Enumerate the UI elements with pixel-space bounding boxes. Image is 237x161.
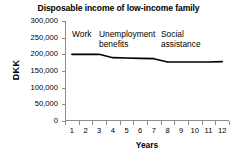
y-axis-tick-labels: 300,000250,000200,000150,000100,00050,00… <box>14 0 58 161</box>
x-axis-tick-mark <box>106 121 107 125</box>
annotation-work: Work <box>72 30 91 40</box>
y-axis-tick-label: 300,000 <box>14 17 58 25</box>
annotation-unemployment-benefits: Unemployment benefits <box>99 30 155 49</box>
x-axis-title: Years <box>65 140 229 150</box>
chart-figure: Disposable income of low-income family D… <box>0 0 237 161</box>
y-axis-tick-label: 50,000 <box>14 100 58 108</box>
x-axis-tick-mark <box>147 121 148 125</box>
y-axis-tick-mark <box>62 88 66 89</box>
x-axis-tick-mark <box>229 121 230 125</box>
x-axis-tick-mark <box>120 121 121 125</box>
y-axis-tick-mark <box>62 54 66 55</box>
annotation-social-assistance: Social assistance <box>161 30 201 49</box>
x-axis-tick-mark <box>92 121 93 125</box>
y-axis-tick-label: 250,000 <box>14 34 58 42</box>
y-axis-tick-mark <box>62 38 66 39</box>
x-axis-tick-mark <box>202 121 203 125</box>
x-axis-tick-mark <box>174 121 175 125</box>
y-axis-tick-mark <box>62 71 66 72</box>
y-axis-tick-label: 100,000 <box>14 84 58 92</box>
y-axis-tick-mark <box>62 21 66 22</box>
x-axis-tick-mark <box>133 121 134 125</box>
y-axis-tick-label: 150,000 <box>14 67 58 75</box>
x-axis-tick-mark <box>65 121 66 125</box>
y-axis-tick-mark <box>62 104 66 105</box>
series-polyline <box>72 54 222 62</box>
x-axis-tick-mark <box>79 121 80 125</box>
x-axis-tick-mark <box>161 121 162 125</box>
x-axis-tick-labels: 123456789101112 <box>65 126 229 137</box>
y-axis-tick-label: 200,000 <box>14 50 58 58</box>
x-axis-tick-mark <box>188 121 189 125</box>
y-axis-tick-label: 0 <box>14 117 58 125</box>
x-axis-tick-label: 12 <box>214 126 230 135</box>
x-axis-tick-mark <box>215 121 216 125</box>
